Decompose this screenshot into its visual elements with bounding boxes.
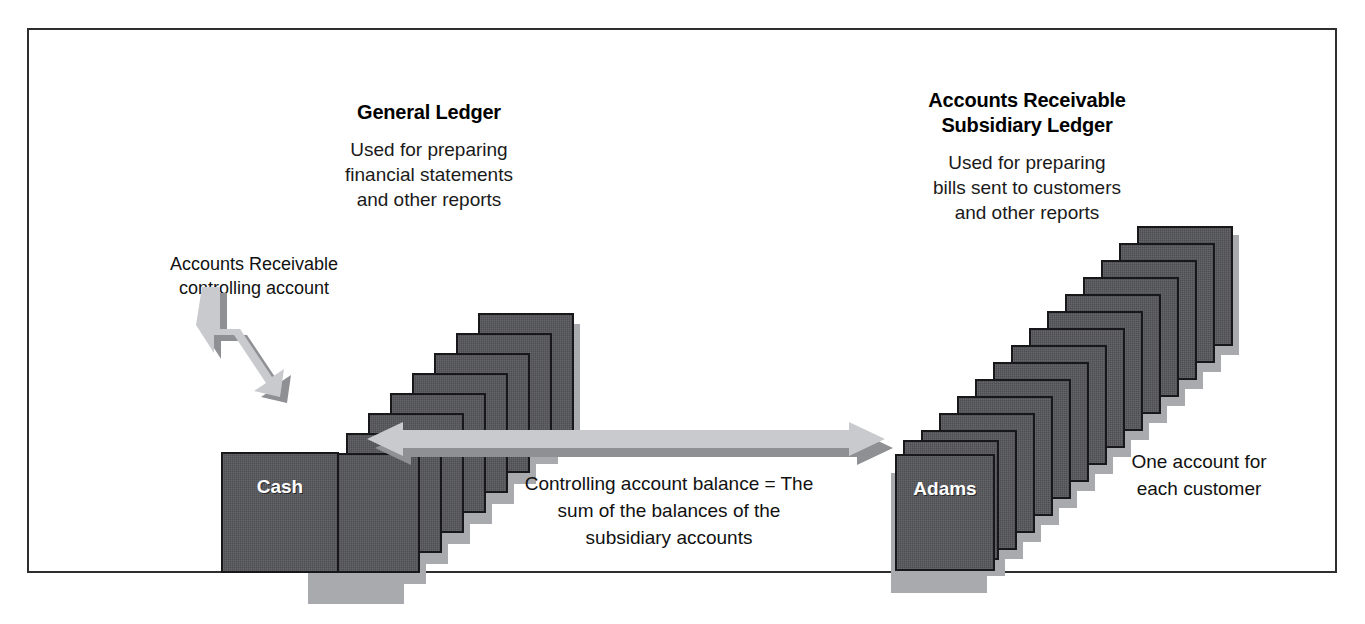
controlling-balance-double-arrow — [359, 422, 904, 468]
subsidiary-ledger-title: Accounts Receivable Subsidiary Ledger — [867, 88, 1187, 138]
subsidiary-ledger-title-line-1: Accounts Receivable — [867, 88, 1187, 113]
general-ledger-description-line-3: and other reports — [279, 187, 579, 212]
diagram-frame: General Ledger Used for preparing financ… — [27, 28, 1337, 573]
one-account-caption: One account for each customer — [1084, 448, 1314, 502]
ledger-card-front-cash: Cash — [221, 452, 339, 573]
subsidiary-ledger-description: Used for preparing bills sent to custome… — [867, 150, 1187, 225]
general-ledger-title: General Ledger — [279, 100, 579, 125]
ledger-card-label: Adams — [897, 478, 993, 500]
ledger-card-label: Cash — [223, 476, 337, 498]
controlling-account-callout-line-1: Accounts Receivable — [129, 252, 379, 276]
subsidiary-ledger-title-line-2: Subsidiary Ledger — [867, 113, 1187, 138]
general-ledger-description-line-1: Used for preparing — [279, 137, 579, 162]
subsidiary-ledger-description-line-1: Used for preparing — [867, 150, 1187, 175]
one-account-caption-line-1: One account for — [1084, 448, 1314, 475]
callout-pointer-arrow — [194, 285, 304, 415]
general-ledger-heading: General Ledger Used for preparing financ… — [279, 100, 579, 212]
ledger-relationship-diagram: General Ledger Used for preparing financ… — [0, 0, 1365, 624]
controlling-balance-caption-line-3: subsidiary accounts — [469, 524, 869, 551]
subsidiary-ledger-heading: Accounts Receivable Subsidiary Ledger Us… — [867, 88, 1187, 225]
general-ledger-description-line-2: financial statements — [279, 162, 579, 187]
controlling-balance-caption: Controlling account balance = The sum of… — [469, 470, 869, 551]
one-account-caption-line-2: each customer — [1084, 475, 1314, 502]
subsidiary-ledger-description-line-2: bills sent to customers — [867, 175, 1187, 200]
controlling-balance-caption-line-2: sum of the balances of the — [469, 497, 869, 524]
ledger-card-front-adams: Adams — [895, 454, 995, 571]
controlling-balance-caption-line-1: Controlling account balance = The — [469, 470, 869, 497]
general-ledger-description: Used for preparing financial statements … — [279, 137, 579, 212]
subsidiary-ledger-description-line-3: and other reports — [867, 200, 1187, 225]
